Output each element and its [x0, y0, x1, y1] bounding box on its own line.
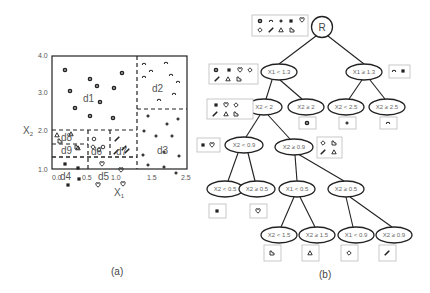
- node-label: X2 < 0.5: [214, 186, 237, 192]
- region-label-d2: d2: [152, 83, 164, 94]
- x-tick-15: 1.5: [147, 174, 157, 181]
- y-axis-label: X2: [23, 125, 34, 137]
- node-label: X2 ≥ 0.9: [383, 232, 406, 238]
- node-label: X2 ≥ 0.9: [283, 144, 306, 150]
- region-d2-points: [142, 62, 180, 101]
- x2-lt-0.9-class-box: [197, 138, 220, 152]
- node-label: X2 < 0.9: [233, 142, 256, 148]
- decision-tree-figure: d1 d2 d3 d4 d5 d6 d7 d8 d9 4.0 3.0 2.0 1…: [0, 0, 430, 293]
- region-label-d1: d1: [83, 93, 95, 104]
- decision-tree: R X1 < 1.3 X1 ≥ 1.3 X2 < 2 X2 ≥ 2 X2: [197, 15, 412, 280]
- node-label: X2 ≥ 1.5: [306, 232, 329, 238]
- node-label: X1 < 0.9: [345, 232, 368, 238]
- x-tick-25: 2.5: [181, 174, 191, 181]
- leaf-d2-box: [380, 117, 397, 129]
- x2-ge-0.9-class-box: [317, 137, 342, 158]
- y-tick-3: 3.0: [38, 89, 48, 96]
- scatter-partition-plot: d1 d2 d3 d4 d5 d6 d7 d8 d9 4.0 3.0 2.0 1…: [23, 52, 191, 277]
- region-label-d5: d5: [98, 171, 110, 182]
- node-label: X2 ≥ 0.5: [335, 186, 358, 192]
- root-label: R: [318, 22, 325, 33]
- x1-lt-1.3-class-box: [209, 64, 258, 84]
- leaf-d5-box: [250, 204, 267, 218]
- region-label-d9: d9: [61, 145, 73, 156]
- leaf-d8-box: [302, 245, 319, 261]
- x-tick-1: 1.0: [111, 174, 121, 181]
- region-label-d3: d3: [157, 145, 169, 156]
- node-label: X2 ≥ 2: [297, 104, 315, 110]
- node-label: X2 < 2.5: [335, 104, 358, 110]
- region-label-d7: d7: [116, 146, 128, 157]
- node-label: X2 ≥ 0.5: [246, 186, 269, 192]
- region-label-d6: d6: [91, 146, 103, 157]
- x-axis-label: X1: [114, 187, 125, 199]
- region-label-d8: d8: [61, 132, 73, 143]
- node-label: X1 < 1.3: [268, 69, 291, 75]
- class-symbols: [201, 18, 404, 256]
- node-label: X1 < 0.5: [286, 186, 309, 192]
- node-label: X2 < 2: [255, 104, 273, 110]
- node-label: X1 ≥ 1.3: [353, 69, 376, 75]
- leaf-d6-box: [341, 245, 358, 261]
- caption-b: (b): [319, 269, 331, 280]
- y-tick-2: 2.0: [38, 127, 48, 134]
- x-tick-05: 0.5: [82, 174, 92, 181]
- y-tick-1: 1.0: [38, 166, 48, 173]
- node-label: X2 ≥ 2.5: [376, 104, 399, 110]
- x-tick-0: 0.0: [52, 174, 62, 181]
- y-tick-4: 4.0: [38, 52, 48, 59]
- caption-a: (a): [111, 266, 123, 277]
- node-label: X2 < 1.5: [268, 232, 291, 238]
